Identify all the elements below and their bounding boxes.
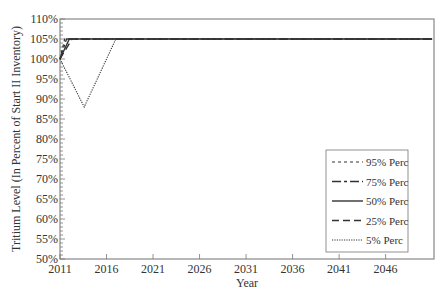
legend-label: 75% Perc bbox=[366, 176, 409, 188]
y-tick-label: 55% bbox=[36, 232, 58, 246]
y-tick-label: 95% bbox=[36, 72, 58, 86]
x-axis: 20112016202120262031203620412046 bbox=[48, 254, 397, 276]
legend-label: 95% Perc bbox=[366, 156, 409, 168]
x-tick-label: 2036 bbox=[281, 262, 305, 276]
legend-label: 25% Perc bbox=[366, 215, 409, 227]
x-tick-label: 2021 bbox=[141, 262, 165, 276]
series-line-75-perc bbox=[60, 39, 432, 59]
series-layer bbox=[60, 39, 432, 107]
x-tick-label: 2031 bbox=[234, 262, 258, 276]
y-tick-label: 80% bbox=[36, 132, 58, 146]
y-tick-label: 85% bbox=[36, 112, 58, 126]
y-tick-label: 60% bbox=[36, 212, 58, 226]
y-tick-label: 65% bbox=[36, 192, 58, 206]
x-tick-label: 2016 bbox=[95, 262, 119, 276]
x-tick-label: 2046 bbox=[374, 262, 398, 276]
legend-label: 50% Perc bbox=[366, 195, 409, 207]
x-tick-label: 2011 bbox=[48, 262, 72, 276]
series-line-5-perc bbox=[60, 39, 432, 107]
tritium-level-chart: 50%55%60%65%70%75%80%85%90%95%100%105%11… bbox=[0, 0, 448, 301]
x-tick-label: 2026 bbox=[188, 262, 212, 276]
y-tick-label: 100% bbox=[30, 52, 58, 66]
series-line-95-perc bbox=[60, 39, 432, 59]
y-tick-label: 90% bbox=[36, 92, 58, 106]
series-line-25-perc bbox=[60, 39, 432, 59]
x-axis-title: Year bbox=[236, 276, 258, 290]
y-tick-label: 75% bbox=[36, 152, 58, 166]
x-tick-label: 2041 bbox=[327, 262, 351, 276]
legend-label: 5% Perc bbox=[366, 234, 403, 246]
y-tick-label: 105% bbox=[30, 32, 58, 46]
series-line-50-perc bbox=[60, 39, 432, 59]
y-axis-title: Tritium Level (In Percent of Start II In… bbox=[9, 26, 23, 252]
legend: 95% Perc75% Perc50% Perc25% Perc5% Perc bbox=[326, 150, 409, 252]
y-tick-label: 110% bbox=[30, 12, 58, 26]
y-tick-label: 70% bbox=[36, 172, 58, 186]
